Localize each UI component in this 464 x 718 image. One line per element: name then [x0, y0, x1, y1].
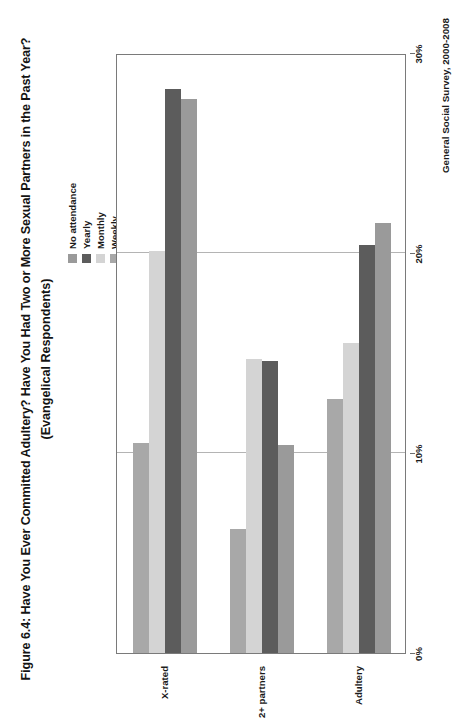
bar-group — [310, 55, 406, 653]
bar — [165, 89, 181, 653]
figure-canvas: Figure 6.4: Have You Ever Committed Adul… — [0, 0, 464, 718]
value-axis-label: 30% — [413, 44, 424, 63]
value-axis-label: 0% — [413, 647, 424, 661]
value-axis-label: 10% — [413, 444, 424, 463]
category-axis-label: 2+ partners — [256, 666, 267, 718]
bar — [343, 343, 359, 653]
legend-swatch-icon — [82, 254, 91, 263]
source-note: General Social Survey, 2000-2008 — [440, 18, 451, 173]
legend-label: No attendance — [68, 183, 78, 249]
bar — [149, 251, 165, 653]
bar-group — [117, 55, 214, 653]
legend-swatch-icon — [96, 254, 105, 263]
category-axis-label: Adultery — [352, 666, 363, 705]
bar — [278, 445, 294, 653]
figure-title: Figure 6.4: Have You Ever Committed Adul… — [16, 0, 56, 718]
bar — [230, 529, 246, 653]
legend-label: Yearly — [82, 221, 92, 249]
bar — [262, 361, 278, 653]
rotated-figure-wrapper: Figure 6.4: Have You Ever Committed Adul… — [0, 0, 464, 718]
legend-item: Yearly — [80, 183, 93, 263]
legend-item: Monthly — [94, 183, 107, 263]
bar-group — [214, 55, 311, 653]
legend-swatch-icon — [68, 254, 77, 263]
figure-title-line-1: Figure 6.4: Have You Ever Committed Adul… — [16, 0, 36, 718]
plot-area — [116, 54, 406, 654]
bar — [246, 359, 262, 653]
bar — [327, 399, 343, 653]
category-axis-label: X-rated — [159, 666, 170, 699]
legend-label: Monthly — [96, 212, 106, 249]
value-axis-label: 20% — [413, 244, 424, 263]
bar — [375, 223, 391, 653]
legend-item: No attendance — [66, 183, 79, 263]
bar — [359, 245, 375, 653]
value-axis-labels: 0%10%20%30% — [410, 54, 432, 654]
figure-title-line-2: (Evangelical Respondents) — [36, 0, 56, 718]
chart-legend: No attendanceYearlyMonthlyWeekly — [66, 183, 121, 263]
bar — [181, 99, 197, 653]
category-axis-labels: Adultery2+ partnersX-rated — [116, 658, 406, 718]
bar — [133, 443, 149, 653]
